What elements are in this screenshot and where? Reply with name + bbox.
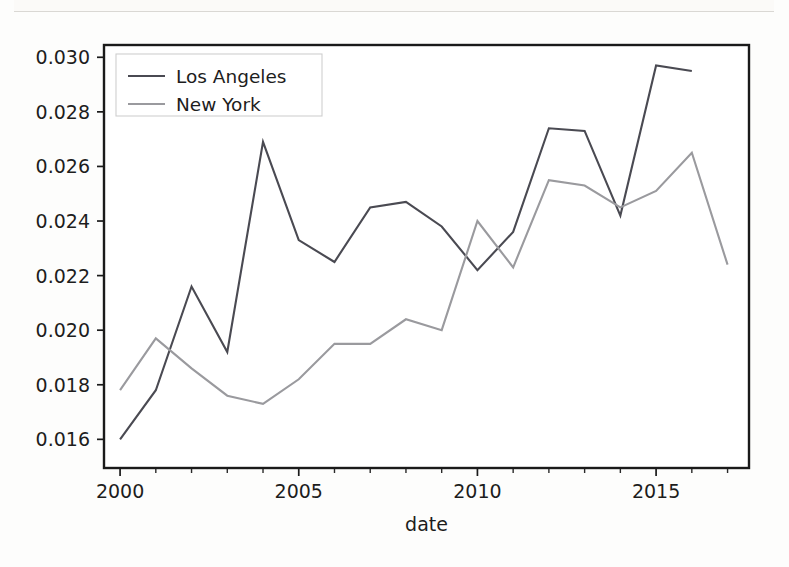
x-axis-ticks [120, 468, 656, 476]
y-tick-label: 0.016 [36, 428, 90, 450]
y-tick-label: 0.022 [36, 265, 90, 287]
y-tick-label: 0.026 [36, 155, 90, 177]
x-tick-label: 2010 [453, 480, 501, 502]
y-tick-label: 0.020 [36, 319, 90, 341]
x-tick-label: 2015 [632, 480, 680, 502]
x-tick-label: 2000 [96, 480, 144, 502]
y-tick-label: 0.024 [36, 210, 90, 232]
y-tick-label: 0.028 [36, 101, 90, 123]
y-axis-tick-labels: 0.0160.0180.0200.0220.0240.0260.0280.030 [36, 46, 90, 450]
x-tick-label: 2005 [275, 480, 323, 502]
page-canvas: 0.0160.0180.0200.0220.0240.0260.0280.030… [0, 0, 789, 567]
x-axis-title: date [405, 513, 448, 535]
x-axis-tick-labels: 2000200520102015 [96, 480, 680, 502]
legend-label-new-york: New York [176, 94, 261, 115]
y-tick-label: 0.030 [36, 46, 90, 68]
line-chart-figure: 0.0160.0180.0200.0220.0240.0260.0280.030… [0, 0, 789, 567]
legend-label-los-angeles: Los Angeles [176, 66, 287, 87]
chart-svg: 0.0160.0180.0200.0220.0240.0260.0280.030… [0, 0, 789, 567]
chart-legend[interactable]: Los AngelesNew York [116, 54, 322, 116]
y-tick-label: 0.018 [36, 374, 90, 396]
